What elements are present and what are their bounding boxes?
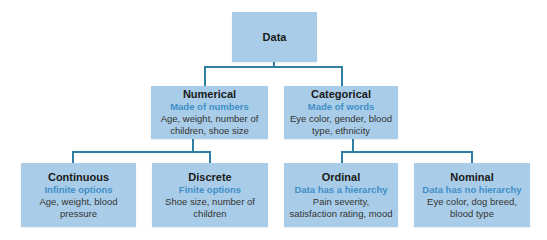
node-nominal: Nominal Data has no hierarchy Eye color,… [414, 163, 530, 227]
node-description: Eye color, dog breed, blood type [422, 196, 522, 220]
node-discrete: Discrete Finite options Shoe size, numbe… [152, 163, 268, 227]
node-subtitle: Data has a hierarchy [295, 184, 388, 196]
node-continuous: Continuous Infinite options Age, weight,… [21, 163, 136, 227]
node-description: Age, weight, blood pressure [35, 196, 122, 220]
node-description: Eye color, gender, blood type, ethnicity [290, 113, 392, 137]
node-description: Shoe size, number of children [162, 196, 258, 220]
node-description: Age, weight, number of children, shoe si… [157, 113, 262, 137]
node-numerical: Numerical Made of numbers Age, weight, n… [151, 86, 268, 139]
node-subtitle: Made of words [308, 101, 375, 113]
node-title: Discrete [188, 171, 231, 184]
node-title: Data [263, 31, 287, 44]
connector-numerical-bar [72, 151, 211, 153]
node-title: Categorical [311, 88, 371, 101]
node-title: Numerical [183, 88, 236, 101]
connector-categorical-bar [341, 151, 473, 153]
node-categorical: Categorical Made of words Eye color, gen… [284, 86, 398, 139]
node-title: Ordinal [322, 171, 361, 184]
connector-categorical-drop [341, 66, 343, 86]
connector-continuous-drop [72, 151, 74, 163]
node-title: Continuous [48, 171, 109, 184]
node-ordinal: Ordinal Data has a hierarchy Pain severi… [284, 163, 398, 227]
node-subtitle: Finite options [179, 184, 241, 196]
connector-numerical-drop [204, 66, 206, 86]
node-title: Nominal [450, 171, 493, 184]
node-data: Data [232, 12, 317, 62]
connector-level1-bar [204, 66, 343, 68]
connector-ordinal-drop [341, 151, 343, 163]
node-subtitle: Made of numbers [170, 101, 249, 113]
node-subtitle: Infinite options [44, 184, 112, 196]
node-subtitle: Data has no hierarchy [422, 184, 521, 196]
connector-discrete-drop [209, 151, 211, 163]
node-description: Pain severity, satisfaction rating, mood [288, 196, 394, 220]
connector-nominal-drop [471, 151, 473, 163]
